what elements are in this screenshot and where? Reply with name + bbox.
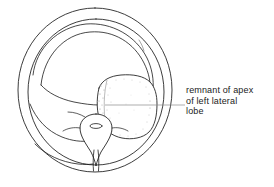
- urethral-orifice-oval: [90, 124, 102, 129]
- annotation-line-3: lobe: [186, 106, 272, 117]
- bulb-upper-left-notch: [68, 112, 85, 117]
- left-lobe-inferior-boundary: [35, 144, 93, 164]
- remnant-of-apex-label: remnant of apex of left lateral lobe: [186, 85, 272, 117]
- bulb-left-flare: [63, 128, 80, 131]
- figure-root: remnant of apex of left lateral lobe: [0, 0, 274, 187]
- descending-duct-right: [98, 150, 99, 171]
- verumontanum-bulb-outline: [80, 114, 112, 166]
- annotation-line-2: of left lateral: [186, 96, 272, 107]
- descending-duct-left: [93, 150, 94, 171]
- annotation-line-1: remnant of apex: [186, 85, 272, 96]
- left-lobe-upper-boundary: [41, 85, 99, 105]
